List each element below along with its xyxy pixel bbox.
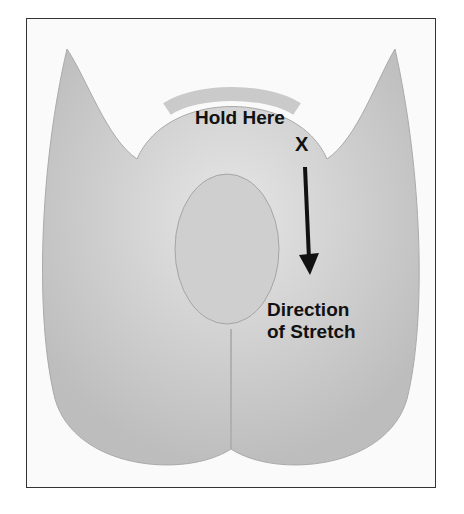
stretch-label-line-1: Direction bbox=[267, 299, 356, 321]
stretch-label-line-2: of Stretch bbox=[267, 321, 356, 343]
arrow-down-icon bbox=[297, 167, 321, 277]
diagram-frame: Hold Here X Direction of Stretch bbox=[26, 18, 436, 488]
anatomical-illustration bbox=[27, 19, 435, 487]
direction-of-stretch-label: Direction of Stretch bbox=[267, 299, 356, 343]
hold-here-label: Hold Here bbox=[195, 107, 285, 129]
hold-position-marker: X bbox=[295, 133, 308, 156]
